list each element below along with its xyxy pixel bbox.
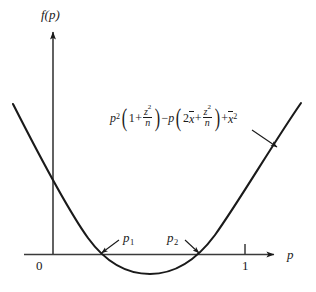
p2-pointer-arrow <box>185 240 199 253</box>
formula-z-1-exponent: 2 <box>148 103 152 111</box>
root-label-p2-base: p <box>167 230 174 245</box>
formula-p2: p <box>168 111 174 126</box>
x-axis-label: p <box>287 248 294 261</box>
root-label-p1: p1 <box>123 231 134 244</box>
fraction-z2-over-n-2: z2 n <box>203 107 212 129</box>
origin-label: 0 <box>36 259 43 272</box>
fraction-numerator-2: z2 <box>203 107 212 118</box>
close-paren-1: ) <box>155 110 160 126</box>
fraction-numerator-1: z2 <box>143 107 152 118</box>
quadratic-formula-annotation: p2 ( 1+ z2 n ) −p ( 2x+ z2 n ) +x2 <box>110 107 237 129</box>
open-paren-2: ( <box>176 110 181 126</box>
root-label-p1-base: p <box>123 230 130 245</box>
root-label-p1-subscript: 1 <box>130 237 134 247</box>
formula-z-2-exponent: 2 <box>208 103 212 111</box>
formula-z-2: z <box>204 106 208 117</box>
formula-plus-1: + <box>135 111 143 126</box>
parabola-figure: f(p) p 0 1 p1 p2 p2 ( 1+ z2 n ) −p ( 2x+… <box>0 0 316 292</box>
formula-plus-3: + <box>221 111 228 126</box>
fraction-denominator-1: n <box>143 117 152 129</box>
close-paren-2: ) <box>214 110 219 126</box>
p1-pointer-arrow <box>102 240 120 253</box>
plot-canvas <box>0 0 316 292</box>
root-label-p2: p2 <box>167 231 178 244</box>
fraction-denominator-2: n <box>203 117 212 129</box>
fraction-z2-over-n-1: z2 n <box>143 107 152 129</box>
open-paren-1: ( <box>122 110 127 126</box>
formula-plus-2: + <box>194 111 202 126</box>
y-axis-label: f(p) <box>41 8 60 21</box>
x-tick-label-1: 1 <box>242 259 249 272</box>
root-label-p2-subscript: 2 <box>174 237 178 247</box>
formula-pointer-arrow <box>252 130 277 147</box>
